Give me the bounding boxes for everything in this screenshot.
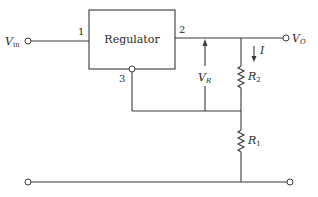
pin3-bubble	[129, 66, 135, 72]
r1-label: R1	[247, 134, 261, 148]
pin1-label: 1	[78, 26, 84, 37]
ground-terminal-right	[287, 179, 293, 185]
divider-branch: R2 R1	[238, 38, 261, 182]
input-terminal	[25, 38, 31, 44]
pin2-label: 2	[179, 24, 185, 35]
ground-terminal-left	[25, 179, 31, 185]
regulator-block: Regulator	[89, 10, 175, 69]
resistor-r1-icon	[238, 130, 244, 152]
resistor-r2-icon	[238, 66, 244, 88]
current-label: I	[259, 44, 265, 57]
vin-label: Vin	[5, 35, 20, 49]
vo-label: VO	[292, 32, 306, 46]
output-terminal	[283, 35, 289, 41]
regulator-circuit-diagram: Regulator Vin 1 VO 2 I R2 R1 3	[0, 0, 318, 197]
current-arrow-head	[252, 56, 257, 62]
ground-rail	[25, 179, 293, 185]
adjust-branch: 3	[119, 66, 241, 111]
vr-arrow: VR	[198, 39, 212, 111]
vr-arrow-head	[203, 39, 208, 46]
input-branch: Vin 1	[5, 26, 89, 49]
current-arrow: I	[252, 44, 266, 62]
pin3-label: 3	[119, 73, 125, 84]
regulator-label: Regulator	[104, 33, 160, 46]
r2-label: R2	[247, 70, 261, 84]
vr-label: VR	[198, 71, 212, 85]
